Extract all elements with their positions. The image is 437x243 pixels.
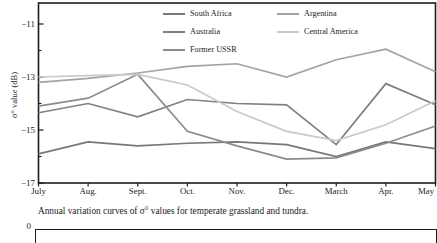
figure: σ° value (dB) −11−13−15−17 JulyAug.Sept.… <box>0 0 437 243</box>
legend-label: Former USSR <box>190 45 237 55</box>
series-line-central-america <box>39 74 436 140</box>
x-tick-label: Nov. <box>229 186 246 196</box>
legend-line-swatch <box>277 31 299 33</box>
x-tick-label: Sept. <box>129 186 147 196</box>
legend-line-swatch <box>163 49 185 51</box>
series-line-south-africa <box>39 142 436 157</box>
figure-caption: Annual variation curves of σ° values for… <box>38 205 433 217</box>
x-tick-label: March <box>325 186 348 196</box>
y-tick-label: −13 <box>10 72 35 82</box>
series-line-former-ussr <box>39 74 436 159</box>
y-tick-label: −15 <box>10 125 35 135</box>
x-tick-label: May <box>418 186 434 196</box>
y-tick-label: −11 <box>10 19 35 29</box>
x-tick-label: July <box>31 186 46 196</box>
x-tick-label: Dec. <box>278 186 294 196</box>
next-chart-y-tick-label: 0 <box>16 221 31 231</box>
series-line-argentina <box>39 49 436 82</box>
legend-label: Argentina <box>304 9 337 19</box>
legend-line-swatch <box>163 31 185 33</box>
legend-label: Australia <box>190 27 220 37</box>
legend-label: Central America <box>304 27 358 37</box>
legend-label: South Africa <box>190 9 232 19</box>
x-tick-label: Oct. <box>180 186 195 196</box>
next-chart-top-fragment <box>35 229 437 243</box>
x-tick-label: Aug. <box>79 186 96 196</box>
legend-line-swatch <box>163 13 185 15</box>
x-tick-label: Apr. <box>378 186 393 196</box>
legend-line-swatch <box>277 13 299 15</box>
